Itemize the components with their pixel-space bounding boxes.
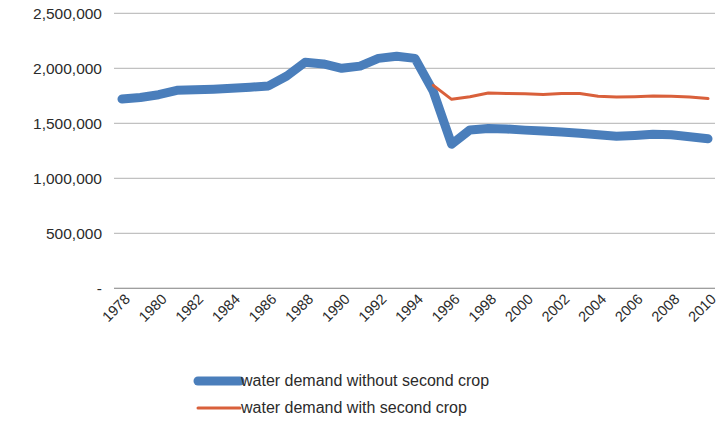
x-axis-labels-group: 1978198019821984198619881990199219941996… bbox=[99, 291, 719, 325]
x-axis-tick-label: 2000 bbox=[502, 291, 536, 325]
legend-label-1: water demand with second crop bbox=[240, 399, 467, 416]
chart-container: -500,0001,000,0001,500,0002,000,0002,500… bbox=[0, 0, 720, 430]
x-axis-tick-label: 1988 bbox=[282, 291, 316, 325]
x-axis-tick-label: 1994 bbox=[392, 291, 426, 325]
x-axis-tick-label: 1978 bbox=[99, 291, 133, 325]
series-line-1 bbox=[433, 85, 708, 99]
x-axis-tick-label: 1982 bbox=[172, 291, 206, 325]
x-axis-tick-label: 2010 bbox=[685, 291, 719, 325]
y-axis-tick-label: 2,500,000 bbox=[33, 5, 102, 22]
x-axis-tick-label: 1996 bbox=[429, 291, 463, 325]
x-axis-tick-label: 1986 bbox=[245, 291, 279, 325]
legend-label-0: water demand without second crop bbox=[240, 372, 489, 389]
x-axis-tick-label: 1984 bbox=[209, 291, 243, 325]
series-line-0 bbox=[122, 56, 708, 144]
x-axis-tick-label: 2002 bbox=[538, 291, 572, 325]
x-axis-tick-label: 2008 bbox=[648, 291, 682, 325]
x-axis-tick-label: 2004 bbox=[575, 291, 609, 325]
x-axis-tick-label: 1992 bbox=[355, 291, 389, 325]
x-axis-tick-label: 1990 bbox=[319, 291, 353, 325]
y-axis-tick-label: 1,000,000 bbox=[33, 170, 102, 187]
y-axis-tick-label: 500,000 bbox=[46, 225, 102, 242]
chart-legend: water demand without second cropwater de… bbox=[198, 372, 489, 416]
x-axis-tick-label: 1980 bbox=[136, 291, 170, 325]
x-axis-tick-label: 1998 bbox=[465, 291, 499, 325]
y-axis-tick-label: 2,000,000 bbox=[33, 60, 102, 77]
line-chart: -500,0001,000,0001,500,0002,000,0002,500… bbox=[0, 0, 720, 430]
y-axis-labels-group: -500,0001,000,0001,500,0002,000,0002,500… bbox=[33, 5, 102, 297]
y-axis-tick-label: 1,500,000 bbox=[33, 115, 102, 132]
y-axis-tick-label: - bbox=[97, 280, 102, 297]
x-axis-tick-label: 2006 bbox=[612, 291, 646, 325]
data-series-group bbox=[122, 56, 708, 144]
